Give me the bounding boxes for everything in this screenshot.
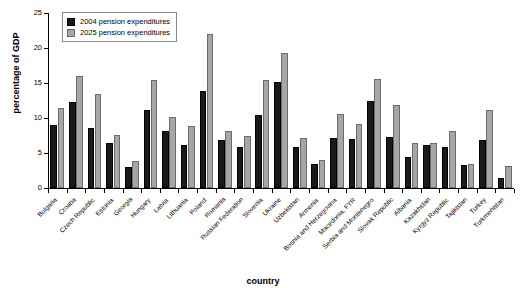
x-tick-mark	[123, 189, 124, 193]
y-axis-title: percentage of GDP	[11, 13, 21, 133]
bar	[505, 166, 512, 188]
x-tick-mark	[458, 189, 459, 193]
x-tick-mark	[48, 189, 49, 193]
legend-label-2025: 2025 pension expenditures	[80, 28, 170, 37]
bar-group	[442, 13, 456, 188]
x-tick-mark	[495, 189, 496, 193]
bar	[50, 125, 57, 188]
bar	[151, 80, 158, 188]
x-tick-mark	[328, 189, 329, 193]
x-tick-mark	[253, 189, 254, 193]
legend-item: 2004 pension expenditures	[67, 16, 170, 27]
bar	[162, 131, 169, 188]
bar-group	[237, 13, 251, 188]
bar	[125, 167, 132, 188]
x-tick-mark	[104, 189, 105, 193]
y-tick-label: 5	[38, 148, 42, 157]
y-tick-label: 25	[34, 8, 42, 17]
bar	[169, 117, 176, 188]
bar-group	[423, 13, 437, 188]
bar	[367, 101, 374, 188]
bar	[255, 115, 262, 189]
x-tick-mark	[439, 189, 440, 193]
bar	[207, 34, 214, 188]
x-tick-mark	[290, 189, 291, 193]
legend-swatch-2025	[67, 29, 75, 37]
x-tick-mark	[197, 189, 198, 193]
bar-group	[311, 13, 325, 188]
legend-swatch-2004	[67, 18, 75, 26]
bar	[188, 126, 195, 188]
y-tick-label: 20	[34, 43, 42, 52]
bar-group	[181, 13, 195, 188]
bar	[293, 147, 300, 188]
x-tick-mark	[67, 189, 68, 193]
bar	[412, 143, 419, 189]
x-tick-mark	[141, 189, 142, 193]
x-tick-mark	[514, 189, 515, 193]
bar	[237, 147, 244, 188]
y-tick-label: 15	[34, 78, 42, 87]
bar-group	[386, 13, 400, 188]
x-tick-mark	[272, 189, 273, 193]
bar-group	[330, 13, 344, 188]
chart-legend: 2004 pension expenditures 2025 pension e…	[62, 12, 177, 42]
x-tick-mark	[309, 189, 310, 193]
bar-group	[367, 13, 381, 188]
bar-group	[293, 13, 307, 188]
bar-group	[274, 13, 288, 188]
bar	[449, 131, 456, 188]
x-tick-label: Slovak Republic	[356, 196, 394, 234]
x-axis-title: country	[0, 276, 526, 286]
legend-label-2004: 2004 pension expenditures	[80, 17, 170, 26]
bar-group	[498, 13, 512, 188]
y-tick-label: 0	[38, 183, 42, 192]
bar	[374, 79, 381, 188]
x-tick-mark	[160, 189, 161, 193]
x-tick-mark	[384, 189, 385, 193]
bar	[281, 53, 288, 188]
x-tick-mark	[421, 189, 422, 193]
bar	[244, 136, 251, 188]
bar-group	[218, 13, 232, 188]
bar	[330, 138, 337, 188]
bar	[218, 140, 225, 188]
bar	[442, 147, 449, 188]
bar	[58, 108, 65, 188]
x-axis-line	[48, 188, 514, 189]
bar-group	[461, 13, 475, 188]
bar	[300, 138, 307, 188]
bar	[69, 102, 76, 188]
bar	[181, 145, 188, 188]
bar	[319, 160, 326, 188]
bar	[468, 164, 475, 189]
bar-group	[405, 13, 419, 188]
bar	[356, 124, 363, 188]
bar	[423, 145, 430, 188]
x-tick-label: Estonia	[94, 196, 115, 217]
bar	[95, 94, 102, 188]
bar	[479, 140, 486, 188]
x-tick-mark	[234, 189, 235, 193]
bar	[114, 135, 121, 188]
bar	[76, 76, 83, 188]
bar-group	[200, 13, 214, 188]
x-tick-mark	[365, 189, 366, 193]
x-tick-mark	[346, 189, 347, 193]
x-tick-label: Czech Republic	[58, 196, 96, 234]
x-tick-label: Bulgaria	[36, 196, 58, 218]
bar	[498, 178, 505, 189]
bar	[263, 80, 270, 188]
x-tick-mark	[402, 189, 403, 193]
bar	[349, 139, 356, 188]
bar	[311, 164, 318, 189]
bar	[132, 161, 139, 188]
bar	[144, 110, 151, 188]
bar	[225, 131, 232, 188]
chart-figure: percentage of GDP 0510152025 BulgariaCro…	[0, 0, 526, 294]
bar	[461, 165, 468, 188]
bar	[393, 105, 400, 188]
x-tick-mark	[85, 189, 86, 193]
bar	[274, 82, 281, 188]
x-tick-mark	[216, 189, 217, 193]
